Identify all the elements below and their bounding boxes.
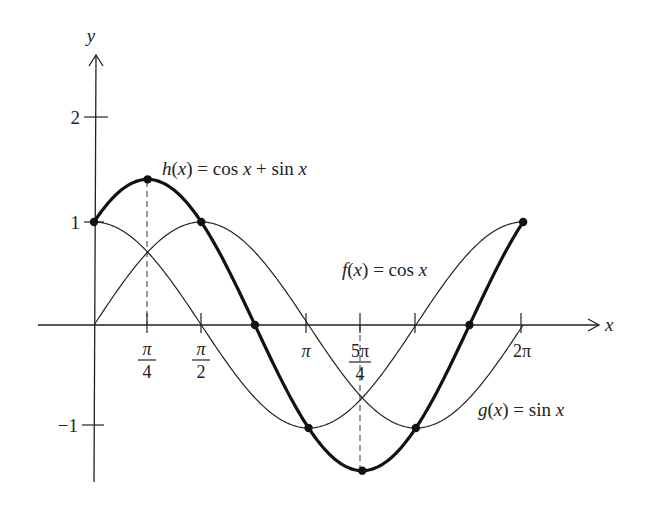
legend-g: g(x) = sin x (478, 399, 565, 421)
legend-h-name: h (162, 158, 172, 179)
var-x: x (555, 399, 565, 420)
x-axis-label: x (604, 314, 614, 335)
highlight-point (90, 218, 98, 226)
highlight-point (304, 424, 312, 432)
legend-h: h(x) = cos x + sin x (162, 158, 307, 180)
legend-h-plus: + sin (251, 158, 298, 179)
legend-f-eq: = cos (368, 259, 418, 280)
y-tick-label-m1: −1 (58, 415, 78, 436)
5pi-4-numerator: 5π (351, 341, 369, 361)
y-tick-label-2: 2 (71, 107, 81, 128)
highlight-point (412, 424, 420, 432)
y-axis (94, 56, 96, 482)
highlight-point (251, 321, 259, 329)
highlight-point (197, 218, 205, 226)
x-tick-label-pi-2: π 2 (192, 339, 210, 382)
x-tick-label-pi-4: π 4 (138, 339, 156, 382)
highlight-point (519, 218, 527, 226)
x-tick-label-pi: π (301, 341, 311, 361)
5pi-4-denominator: 4 (356, 364, 365, 384)
legend-f: f(x) = cos x (342, 259, 428, 281)
pi-2-denominator: 2 (197, 362, 206, 382)
x-tick-label-5pi-4: 5π 4 (349, 341, 371, 384)
legend-g-eq: = sin (509, 399, 556, 420)
var-x: x (418, 259, 428, 280)
pi-4-denominator: 4 (143, 362, 152, 382)
highlight-point (143, 175, 151, 183)
highlight-point (358, 466, 366, 474)
pi-2-numerator: π (196, 339, 206, 359)
x-tick-label-2pi: 2π (513, 341, 531, 361)
legend-h-eq: = cos (193, 158, 243, 179)
pi-4-numerator: π (142, 339, 152, 359)
y-tick-label-1: 1 (71, 212, 81, 233)
y-axis-label: y (85, 25, 96, 46)
legend-g-name: g (478, 399, 488, 420)
highlight-point (465, 321, 473, 329)
var-x: x (297, 158, 307, 179)
trig-sum-chart: y x 2 1 −1 π 4 π 2 π 5π 4 2π h(x) = cos … (0, 0, 655, 515)
